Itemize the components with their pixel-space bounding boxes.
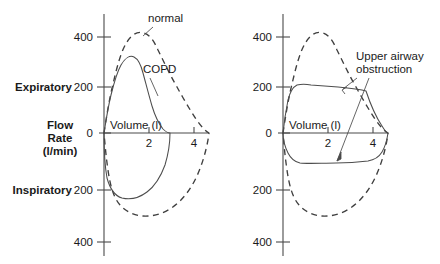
y-tick-label-400-exp-left: 400 (74, 31, 93, 43)
annotation-upper-airway-leader-expiratory (343, 78, 357, 89)
panel-upper-airway-obstruction: 400 200 0 200 400 2 4 Volume (l) Upper a… (253, 14, 424, 256)
y-axis-title-line-2: Rate (48, 132, 73, 144)
annotation-upper-airway-line-1: Upper airway (356, 50, 424, 62)
figure-canvas: 400 200 0 200 400 Expiratory Inspiratory… (0, 0, 440, 264)
panel-copd: 400 200 0 200 400 Expiratory Inspiratory… (13, 12, 209, 256)
y-axis-title-line-1: Flow (47, 119, 73, 131)
y-tick-label-200-insp-left: 200 (74, 184, 93, 196)
y-axis-title-line-3: (l/min) (43, 145, 78, 157)
x-axis-title-left: Volume (l) (110, 119, 162, 131)
x-tick-label-2-right: 2 (325, 137, 331, 149)
y-tick-label-200-insp-right: 200 (253, 184, 272, 196)
y-tick-label-200-exp-right: 200 (253, 81, 272, 93)
label-expiratory: Expiratory (15, 81, 72, 93)
label-inspiratory: Inspiratory (13, 184, 73, 196)
y-tick-label-0-left: 0 (87, 127, 93, 139)
flow-volume-loop-figure: 400 200 0 200 400 Expiratory Inspiratory… (0, 0, 440, 264)
annotation-upper-airway-leader-inspiratory (337, 78, 369, 161)
annotation-upper-airway-arrowhead-inspiratory (337, 152, 341, 161)
y-tick-label-400-insp-right: 400 (253, 236, 272, 248)
y-tick-label-0-right: 0 (266, 127, 272, 139)
y-tick-label-200-exp-left: 200 (74, 81, 93, 93)
y-tick-label-400-exp-right: 400 (253, 31, 272, 43)
annotation-copd-leader (150, 78, 158, 96)
annotation-upper-airway-line-2: obstruction (356, 63, 412, 75)
annotation-copd-label: COPD (143, 63, 176, 75)
annotation-normal-label: normal (148, 12, 183, 24)
x-tick-label-4-right: 4 (370, 137, 377, 149)
x-tick-label-2-left: 2 (146, 137, 152, 149)
y-tick-label-400-insp-left: 400 (74, 236, 93, 248)
x-axis-title-right: Volume (l) (289, 119, 341, 131)
x-tick-label-4-left: 4 (191, 137, 198, 149)
